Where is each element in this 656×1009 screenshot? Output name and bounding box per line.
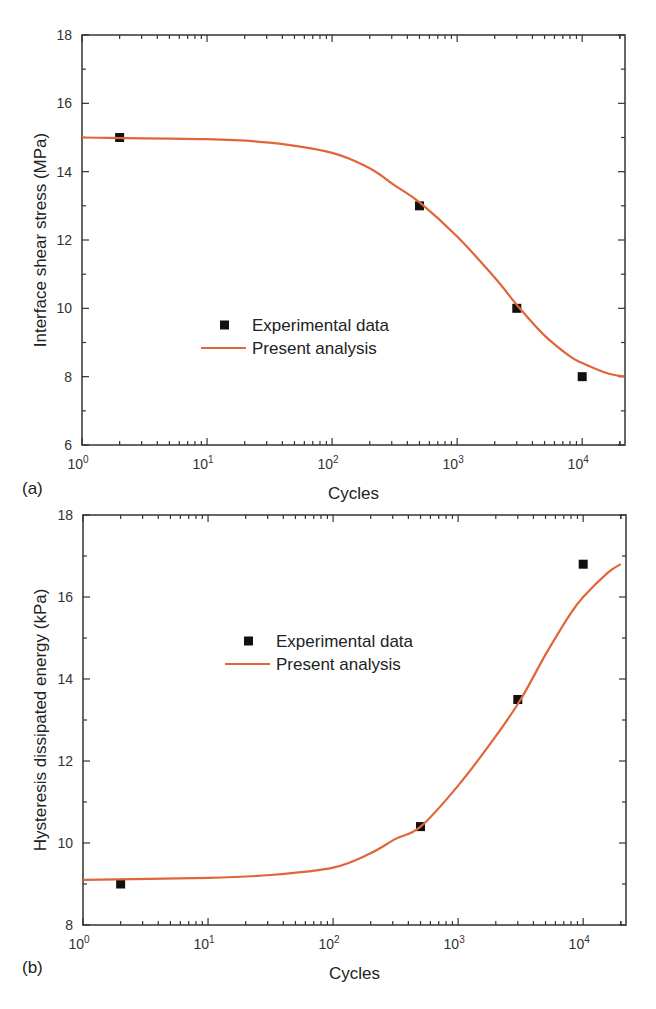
y-axis-title: Hysteresis dissipated energy (kPa) [31, 589, 50, 852]
x-tick-exponent: 3 [458, 454, 464, 465]
x-tick-base: 10 [444, 936, 460, 952]
y-tick-label: 8 [64, 369, 72, 385]
experimental-data-marker [579, 560, 588, 569]
y-tick-label: 14 [57, 671, 73, 687]
x-tick-exponent: 0 [84, 934, 90, 945]
legend-marker-square-icon [220, 321, 229, 330]
x-tick-label: 102 [318, 454, 340, 472]
legend-label-analysis: Present analysis [252, 339, 377, 358]
x-tick-base: 10 [67, 456, 83, 472]
legend: Experimental dataPresent analysis [225, 632, 414, 674]
x-tick-base: 10 [319, 936, 335, 952]
x-tick-base: 10 [193, 936, 209, 952]
x-tick-label: 102 [319, 934, 341, 952]
present-analysis-curve [83, 564, 621, 880]
x-tick-exponent: 2 [333, 454, 339, 465]
y-tick-label: 14 [56, 164, 72, 180]
y-tick-label: 18 [56, 27, 72, 43]
x-tick-exponent: 1 [208, 454, 214, 465]
x-tick-exponent: 0 [83, 454, 89, 465]
x-tick-label: 104 [568, 454, 590, 472]
x-tick-base: 10 [68, 936, 84, 952]
y-tick-label: 12 [56, 232, 72, 248]
chart-panel-a: 100101102103104681012141618Experimental … [22, 27, 625, 503]
panel-label: (b) [22, 958, 43, 977]
y-tick-label: 18 [57, 507, 73, 523]
x-tick-exponent: 2 [334, 934, 340, 945]
panel-label: (a) [22, 479, 43, 498]
x-tick-label: 100 [67, 454, 89, 472]
y-axis-title: Interface shear stress (MPa) [31, 133, 50, 347]
x-tick-label: 100 [68, 934, 90, 952]
legend-label-analysis: Present analysis [276, 655, 401, 674]
x-tick-label: 101 [193, 934, 215, 952]
legend-label-experimental: Experimental data [276, 632, 414, 651]
figure-canvas: 100101102103104681012141618Experimental … [0, 0, 656, 1009]
x-tick-label: 103 [444, 934, 466, 952]
y-tick-label: 16 [57, 589, 73, 605]
y-tick-label: 8 [65, 917, 73, 933]
legend-marker-square-icon [244, 637, 253, 646]
y-tick-label: 10 [56, 300, 72, 316]
x-tick-base: 10 [443, 456, 459, 472]
chart-panel-b: 10010110210310481012141618Experimental d… [22, 507, 626, 983]
legend-label-experimental: Experimental data [252, 316, 390, 335]
x-tick-label: 104 [569, 934, 591, 952]
y-tick-label: 12 [57, 753, 73, 769]
x-tick-base: 10 [569, 936, 585, 952]
plot-frame [82, 35, 625, 445]
legend: Experimental dataPresent analysis [201, 316, 390, 358]
x-tick-base: 10 [318, 456, 334, 472]
x-tick-base: 10 [192, 456, 208, 472]
y-tick-label: 6 [64, 437, 72, 453]
y-tick-label: 16 [56, 95, 72, 111]
x-tick-exponent: 4 [583, 454, 589, 465]
x-tick-label: 101 [192, 454, 214, 472]
x-tick-exponent: 4 [584, 934, 590, 945]
x-tick-base: 10 [568, 456, 584, 472]
x-tick-label: 103 [443, 454, 465, 472]
x-tick-exponent: 1 [209, 934, 215, 945]
x-axis-title: Cycles [329, 964, 380, 983]
x-tick-exponent: 3 [459, 934, 465, 945]
plot-frame [83, 515, 626, 925]
experimental-data-marker [116, 880, 125, 889]
experimental-data-marker [578, 372, 587, 381]
x-axis-title: Cycles [328, 484, 379, 503]
y-tick-label: 10 [57, 835, 73, 851]
